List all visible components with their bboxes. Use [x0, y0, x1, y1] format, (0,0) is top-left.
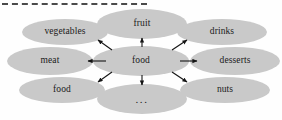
node-ellipse-hub-food[interactable] — [93, 46, 189, 76]
node-ellipse-fruit[interactable] — [97, 9, 187, 39]
edge-arrow-food-food-leaf — [98, 72, 112, 82]
node-ellipse-food-leaf[interactable] — [19, 77, 105, 103]
node-ellipses-layer — [7, 9, 280, 114]
edge-arrow-food-nuts — [172, 72, 187, 82]
node-ellipse-ellipsis[interactable] — [97, 84, 187, 114]
node-ellipse-vegetables[interactable] — [22, 19, 108, 45]
node-ellipse-desserts[interactable] — [190, 47, 280, 75]
node-ellipse-nuts[interactable] — [180, 77, 270, 103]
graph-svg — [0, 0, 282, 120]
figure-canvas: vegetables fruit drinks meat food desser… — [0, 0, 282, 120]
edge-arrow-food-vegetables — [98, 40, 112, 50]
node-ellipse-drinks[interactable] — [177, 19, 267, 45]
edge-arrow-food-drinks — [172, 40, 187, 50]
node-ellipse-meat[interactable] — [7, 47, 93, 75]
